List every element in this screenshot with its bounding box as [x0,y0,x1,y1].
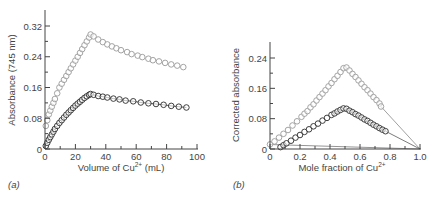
y-tick-label: 0.32 [24,21,43,32]
chart-b: 00.080.160.2400.20.40.60.81.0 Corrected … [230,42,427,190]
x-tick-label: 0.6 [353,151,366,162]
x-tick-label: 80 [161,151,172,162]
x-tick-label: 100 [189,151,205,162]
data-point [105,95,111,101]
data-point [117,97,123,103]
data-point [285,127,291,133]
x-tick-label: 40 [101,151,112,162]
data-point [54,91,60,97]
data-point [156,59,162,65]
y-tick-label: 0 [262,144,267,155]
chart-a-x-axis-title: Volume of Cu2+ (mL) [78,161,165,173]
data-point [153,101,159,107]
x-tick-label: 0.4 [323,151,336,162]
data-point [118,47,124,53]
data-point [52,96,58,102]
x-tick-label: 0 [267,151,272,162]
y-tick-label: 0.24 [249,53,268,64]
data-point [138,100,144,106]
data-point [111,96,117,102]
chart-a: 00.080.160.240.32020406080100 Absorbance… [6,10,205,190]
chart-b-data-points [267,65,388,150]
chart-a-data-points [43,32,189,149]
y-tick-label: 0.24 [24,51,43,62]
data-point [43,123,49,129]
x-tick-label: 20 [70,151,81,162]
y-tick-label: 0.16 [24,82,43,93]
chart-a-panel-label: (a) [8,179,20,190]
data-point [146,101,152,107]
y-tick-label: 0.08 [249,113,268,124]
data-point [294,119,300,125]
data-point [184,105,190,111]
x-tick-label: 1.0 [413,151,426,162]
data-point [168,103,174,109]
chart-b-ticks: 00.080.160.2400.20.40.60.81.0 [249,53,427,163]
data-point [150,57,156,63]
data-point [383,128,389,134]
data-point [140,54,146,60]
chart-b-extrapolation-line-lower [386,131,421,149]
chart-b-panel-label: (b) [233,179,245,190]
data-point [176,104,182,110]
figure: 00.080.160.240.32020406080100 Absorbance… [0,0,437,201]
data-point [162,60,168,66]
chart-b-y-axis-title: Corrected absorbance [230,48,241,142]
y-tick-label: 0.08 [24,113,43,124]
data-point [129,51,135,57]
x-tick-label: 0 [42,151,47,162]
data-point [290,123,296,129]
data-point [181,64,187,70]
chart-a-y-axis-title: Absorbance (745 nm) [6,34,17,125]
data-point [174,63,180,69]
data-point [123,98,129,104]
chart-b-x-axis-title: Mole fraction of Cu2+ [298,161,385,173]
y-tick-label: 0 [37,144,42,155]
data-point [161,102,167,108]
x-tick-label: 0.2 [293,151,306,162]
chart-b-extrapolation-line-upper [381,107,420,149]
data-point [168,62,174,68]
data-point [378,104,384,110]
data-point [130,99,136,105]
y-tick-label: 0.16 [249,83,268,94]
